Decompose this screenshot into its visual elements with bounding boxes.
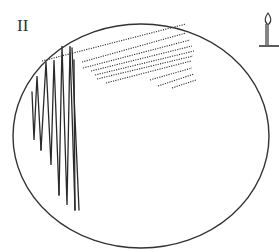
streak-plate-diagram: II	[0, 0, 279, 252]
secondary-streaks	[42, 24, 196, 88]
diagram-canvas	[0, 0, 279, 252]
primary-streaks	[32, 46, 79, 210]
bunsen-burner-icon	[259, 13, 279, 46]
